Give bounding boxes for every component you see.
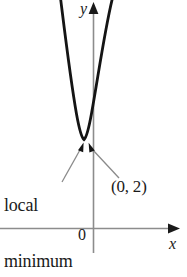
annotation-local-minimum-line2: minimum xyxy=(4,252,73,271)
origin-label: 0 xyxy=(78,227,86,244)
parabola-curve xyxy=(61,0,113,140)
x-axis-label: x xyxy=(169,236,176,253)
leader-line-point-label xyxy=(92,149,119,178)
x-axis-arrowhead-icon xyxy=(168,224,180,234)
annotation-point-coordinates: (0, 2) xyxy=(111,178,147,196)
annotation-local-minimum: local minimum xyxy=(4,158,73,277)
graph-figure: local minimum (0, 2) 0 x y xyxy=(0,0,187,277)
y-axis-arrowhead-icon xyxy=(89,2,99,14)
parabola-path xyxy=(61,0,113,140)
annotation-local-minimum-line1: local xyxy=(4,196,73,215)
y-axis-label: y xyxy=(80,1,87,18)
vertical-axis xyxy=(89,2,99,253)
